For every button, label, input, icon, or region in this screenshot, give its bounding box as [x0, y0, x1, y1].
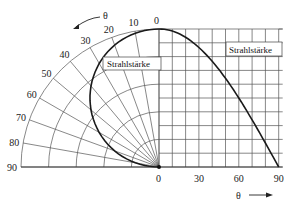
x-tick-label: 60	[234, 173, 244, 184]
x-tick-label: 90	[274, 173, 284, 184]
polar-theta-symbol: θ	[103, 10, 108, 21]
polar-label: Strahlstärke	[107, 59, 150, 69]
polar-tick-label: 30	[81, 35, 91, 46]
x-tick-label: 30	[194, 173, 204, 184]
intensity-diagram: 01020304050607080900306090 Strahlstärke …	[0, 0, 293, 209]
x-axis-theta-symbol: θ	[236, 190, 241, 201]
polar-tick-label: 40	[60, 49, 70, 60]
polar-tick-label: 50	[41, 68, 51, 79]
polar-tick-label: 80	[9, 137, 19, 148]
polar-label-box: Strahlstärke	[103, 57, 161, 70]
axis-labels: 01020304050607080900306090	[7, 15, 284, 184]
polar-tick-label: 20	[104, 24, 114, 35]
polar-tick-label: 90	[7, 162, 17, 173]
polar-intensity-curve	[90, 29, 159, 167]
polar-tick-label: 10	[129, 17, 139, 28]
arrow-head-icon	[73, 24, 79, 29]
origin-point	[157, 165, 161, 169]
x-axis-theta-indicator: θ	[236, 190, 273, 201]
x-tick-label: 0	[156, 173, 161, 184]
cartesian-label: Strahlstärke	[229, 45, 272, 55]
cartesian-label-box: Strahlstärke	[226, 42, 282, 56]
polar-tick-label: 60	[27, 89, 37, 100]
polar-tick-label: 70	[16, 112, 26, 123]
polar-tick-label: 0	[154, 15, 159, 26]
arrow-right-icon	[266, 193, 273, 198]
